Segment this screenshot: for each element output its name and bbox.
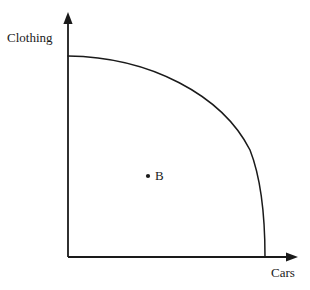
- y-axis-label: Clothing: [7, 30, 53, 45]
- point-b-label: B: [155, 168, 164, 183]
- point-b-marker: [146, 174, 150, 178]
- x-axis-label: Cars: [271, 265, 295, 280]
